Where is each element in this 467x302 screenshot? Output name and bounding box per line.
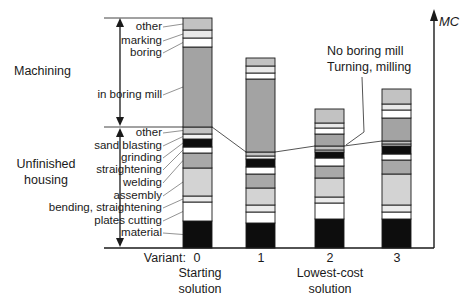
x-tick-variant-3: 3 — [382, 251, 412, 265]
cost-comparison-figure: other marking boring in boring mill othe… — [0, 0, 467, 302]
label-leader-line — [163, 143, 183, 158]
sublabel-starting-solution: Starting solution — [160, 266, 240, 297]
machining-bracket-arrow-arrowhead-bottom — [116, 117, 124, 126]
group-label-unfinished-line2: housing — [11, 173, 81, 189]
label-leader-line — [163, 34, 183, 41]
bar-segment-in-boring-mill-turning-milling-variant-0 — [183, 47, 212, 127]
bar-segment-straightening-variant-2 — [315, 158, 344, 166]
bar-segment-marking-variant-1 — [246, 66, 275, 73]
bar-segment-grinding-variant-0 — [183, 139, 212, 147]
segment-label-other-unfinished: other — [12, 126, 162, 139]
bar-segment-bending-straightening-variant-2 — [315, 197, 344, 203]
bar-segment-assembly-variant-2 — [315, 178, 344, 197]
bar-segment-assembly-variant-1 — [246, 188, 275, 205]
bar-segment-other-unfinished-variant-1 — [246, 152, 275, 156]
y-axis-label-mc: MC — [439, 14, 459, 29]
segment-label-material: material — [12, 226, 162, 239]
segment-label-other-machining: other — [12, 20, 162, 33]
label-leader-line — [163, 137, 183, 147]
bar-segment-other-machining-variant-3 — [382, 89, 411, 104]
annotation-line1: No boring mill — [327, 44, 411, 60]
bar-segment-plates-cutting-variant-0 — [183, 202, 212, 221]
bar-segment-boring-variant-1 — [246, 73, 275, 79]
x-axis-title: Variant: — [118, 251, 186, 266]
bar-segment-plates-cutting-variant-1 — [246, 212, 275, 223]
bar-segment-bending-straightening-variant-0 — [183, 196, 212, 202]
boundary-connector-line — [275, 146, 315, 152]
lowest-cost-line2: solution — [285, 282, 375, 298]
annotation-line2: Turning, milling — [327, 60, 411, 76]
bar-segment-straightening-variant-3 — [382, 154, 411, 160]
segment-label-boring: boring — [12, 46, 162, 59]
x-tick-variant-2: 2 — [315, 251, 345, 265]
bar-segment-boring-variant-0 — [183, 38, 212, 47]
bar-segment-bending-straightening-variant-1 — [246, 205, 275, 212]
bar-segment-assembly-variant-3 — [382, 174, 411, 205]
bar-segment-boring-variant-2 — [315, 128, 344, 134]
bar-segment-grinding-variant-1 — [246, 159, 275, 167]
bar-segment-marking-variant-0 — [183, 30, 212, 38]
x-tick-variant-0: 0 — [182, 251, 212, 265]
bar-segment-assembly-variant-0 — [183, 168, 212, 196]
bar-segment-other-machining-variant-2 — [315, 109, 344, 123]
bar-segment-in-boring-mill-turning-milling-variant-3 — [382, 118, 411, 141]
label-leader-line — [163, 212, 183, 222]
bar-segment-boring-variant-3 — [382, 110, 411, 118]
bar-segment-grinding-variant-3 — [382, 146, 411, 154]
bar-segment-welding-variant-2 — [315, 166, 344, 178]
label-leader-line — [163, 131, 183, 134]
bar-segment-other-machining-variant-0 — [183, 18, 212, 30]
sublabel-lowest-cost-solution: Lowest-cost solution — [285, 266, 375, 297]
x-tick-variant-1: 1 — [246, 251, 276, 265]
bar-segment-other-machining-variant-1 — [246, 58, 275, 66]
mc-axis-arrowhead — [430, 9, 438, 21]
label-leader-line — [163, 24, 183, 27]
bar-segment-welding-variant-3 — [382, 160, 411, 174]
bar-segment-welding-variant-0 — [183, 153, 212, 168]
bar-segment-straightening-variant-0 — [183, 147, 212, 153]
label-leader-line — [163, 43, 183, 54]
group-label-machining: Machining — [14, 64, 71, 79]
bar-segment-material-variant-0 — [183, 221, 212, 248]
bar-segment-in-boring-mill-turning-milling-variant-2 — [315, 134, 344, 146]
bar-segment-plates-cutting-variant-3 — [382, 212, 411, 219]
bar-segment-material-variant-2 — [315, 219, 344, 248]
segment-label-in-boring-mill: in boring mill — [12, 88, 162, 101]
segment-label-bending-straightening: bending, straightening — [12, 201, 162, 214]
starting-solution-line2: solution — [160, 282, 240, 298]
bar-segment-bending-straightening-variant-3 — [382, 205, 411, 212]
label-leader-line — [163, 233, 183, 235]
bar-segment-material-variant-1 — [246, 223, 275, 248]
label-leader-line — [163, 150, 183, 170]
label-leader-line — [163, 161, 183, 184]
bar-segment-material-variant-3 — [382, 219, 411, 248]
bar-segment-plates-cutting-variant-2 — [315, 203, 344, 219]
annotation-leader-line — [346, 77, 364, 145]
bar-segment-other-unfinished-variant-0 — [183, 127, 212, 134]
annotation-no-boring-mill: No boring mill Turning, milling — [327, 44, 411, 75]
group-label-unfinished-line1: Unfinished — [11, 157, 81, 173]
lowest-cost-line1: Lowest-cost — [285, 266, 375, 282]
bar-segment-in-boring-mill-turning-milling-variant-1 — [246, 79, 275, 152]
bar-segment-welding-variant-1 — [246, 174, 275, 188]
bar-segment-sand-blasting-variant-0 — [183, 134, 212, 139]
unfinished-housing-bracket-arrow-arrowhead-bottom — [116, 238, 124, 247]
label-leader-line — [163, 87, 183, 95]
bar-segment-marking-variant-2 — [315, 123, 344, 128]
bar-segment-grinding-variant-2 — [315, 152, 344, 158]
bar-segment-other-unfinished-variant-2 — [315, 146, 344, 150]
group-label-unfinished-housing: Unfinished housing — [11, 157, 81, 188]
bar-segment-marking-variant-3 — [382, 104, 411, 110]
bar-segment-straightening-variant-1 — [246, 167, 275, 174]
label-leader-line — [163, 199, 183, 208]
boundary-connector-line — [212, 127, 246, 152]
label-leader-line — [163, 182, 183, 196]
starting-solution-line1: Starting — [160, 266, 240, 282]
